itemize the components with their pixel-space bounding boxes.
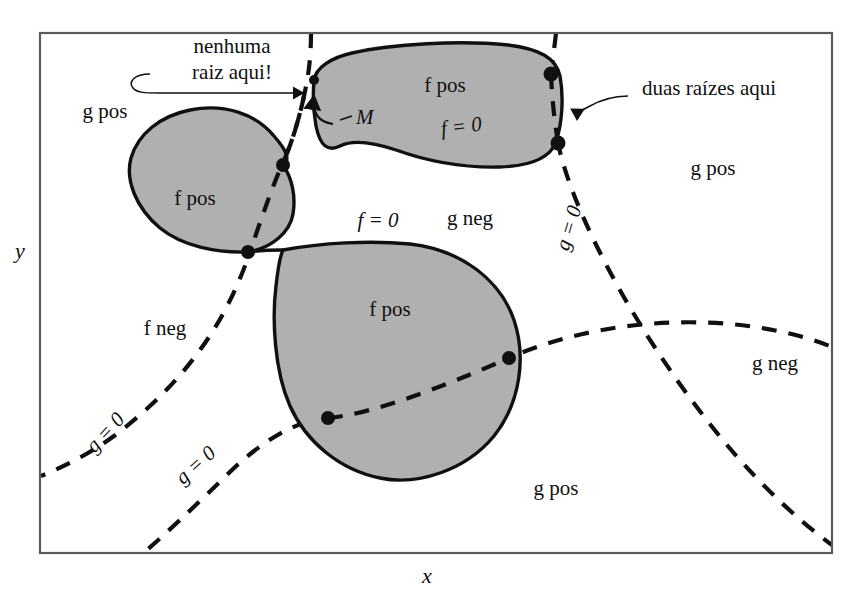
intersection-dot xyxy=(544,67,559,82)
curve-label-f-zero-center: f = 0 xyxy=(357,208,399,232)
region-label-f-pos-top-blob: f pos xyxy=(424,73,465,97)
annotation-no-root-line1: nenhuma xyxy=(194,34,272,58)
annotation-no-root-line2: raiz aqui! xyxy=(192,60,272,84)
region-label-f-pos-left-blob: f pos xyxy=(174,186,215,210)
region-label-f-neg: f neg xyxy=(144,316,187,340)
region-label-f-pos-center-blob: f pos xyxy=(369,297,410,321)
intersection-dot xyxy=(276,158,290,172)
region-label-g-neg-right: g neg xyxy=(752,351,799,375)
curve-label-f-zero-top: f = 0 xyxy=(439,112,483,141)
region-label-g-neg-center: g neg xyxy=(447,206,494,230)
axis-label-y: y xyxy=(13,238,25,263)
intersection-dot xyxy=(321,411,335,425)
diagram-svg: nenhuma raiz aqui! duas raízes aqui M g … xyxy=(0,0,849,602)
intersection-dot xyxy=(241,245,255,259)
label-point-m: M xyxy=(355,105,375,129)
intersection-dot xyxy=(309,75,319,85)
intersection-dot xyxy=(502,351,516,365)
region-label-g-pos-bottom: g pos xyxy=(534,476,579,500)
region-label-g-pos-right: g pos xyxy=(691,156,736,180)
annotation-two-roots: duas raízes aqui xyxy=(642,76,776,100)
intersection-dot xyxy=(551,136,566,151)
region-label-g-pos-top-left: g pos xyxy=(83,99,128,123)
axis-label-x: x xyxy=(421,563,432,588)
figure-canvas: nenhuma raiz aqui! duas raízes aqui M g … xyxy=(0,0,849,602)
